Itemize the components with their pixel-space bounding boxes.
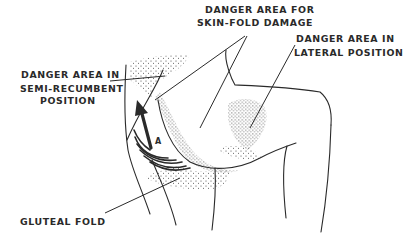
- label-semi-recumbent-line1: DANGER AREA IN: [21, 68, 120, 81]
- label-gluteal-fold: GLUTEAL FOLD: [20, 215, 106, 228]
- label-arrow-a: A: [155, 135, 162, 148]
- label-skin-fold-line2: SKIN-FOLD DAMAGE: [197, 16, 313, 29]
- label-lateral-line1: DANGER AREA IN: [296, 32, 395, 45]
- label-lateral-line2: LATERAL POSITION: [294, 46, 403, 59]
- stipple-areas: [130, 55, 266, 190]
- label-semi-recumbent-line3: POSITION: [40, 94, 96, 107]
- label-skin-fold-line1: DANGER AREA FOR: [205, 3, 314, 16]
